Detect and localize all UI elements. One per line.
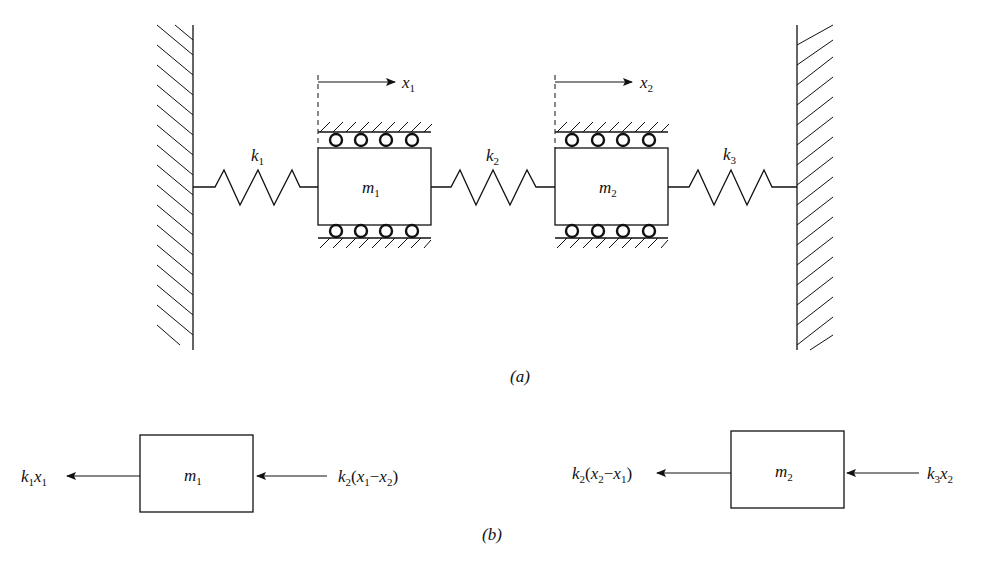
fbd-m2-mass-symbol: m [775, 462, 787, 481]
fbd-m1-mass-subscript: 1 [196, 475, 202, 487]
roller [643, 225, 655, 237]
roller [330, 134, 342, 146]
svg-text:k1: k1 [251, 146, 264, 167]
svg-text:k3: k3 [723, 145, 737, 166]
two-mass-spring-system-diagram: k1 m1 [0, 0, 987, 573]
roller [566, 225, 578, 237]
part-b-label: (b) [482, 525, 502, 544]
roller [355, 134, 367, 146]
roller [406, 225, 418, 237]
roller [617, 225, 629, 237]
fbd-m1-left-force-label: k1x1 [21, 467, 47, 488]
roller [380, 134, 392, 146]
fbd-m2-box [731, 431, 844, 508]
roller [592, 225, 604, 237]
svg-text:m2: m2 [599, 178, 617, 199]
free-body-diagram-m2: m2 k2(x2−x1) k3x2 [572, 431, 953, 508]
mass-m2-symbol: m [599, 178, 611, 197]
free-body-diagram-m1: m1 k1x1 k2(x1−x2) [21, 435, 398, 512]
mass-m2-top-guide [555, 122, 669, 146]
mass-m1-subscript: 1 [374, 187, 380, 199]
fbd-m2-left-force-label: k2(x2−x1) [572, 464, 632, 485]
part-a-system: k1 m1 [157, 25, 833, 386]
roller [355, 225, 367, 237]
displacement-x1-subscript: 1 [410, 82, 416, 94]
roller [592, 134, 604, 146]
roller [566, 134, 578, 146]
left-wall-hatching [157, 25, 193, 345]
fbd-m2-mass-subscript: 2 [787, 471, 793, 483]
mass-m2-subscript: 2 [611, 187, 617, 199]
mass-m2: m2 [555, 148, 668, 225]
mass-m1-top-guide [318, 122, 432, 146]
part-b-free-body-diagrams: m1 k1x1 k2(x1−x2) m2 k2(x2−x1) [21, 431, 953, 544]
fbd-m1-box [140, 435, 253, 512]
roller [330, 225, 342, 237]
fbd-m1-mass-symbol: m [184, 466, 196, 485]
fbd-m2-right-force-label: k3x2 [927, 464, 953, 485]
spring-k3: k3 [668, 145, 797, 205]
svg-text:m2: m2 [775, 462, 793, 483]
displacement-x2-subscript: 2 [648, 82, 654, 94]
spring-k2: k2 [431, 146, 555, 205]
svg-text:m1: m1 [184, 466, 202, 487]
mass-m2-bottom-guide [555, 225, 668, 248]
roller [406, 134, 418, 146]
spring-k3-subscript: 3 [731, 154, 737, 166]
right-wall-hatching [797, 25, 833, 350]
svg-text:k2: k2 [486, 146, 499, 167]
part-a-label: (a) [510, 367, 530, 386]
spring-k1-subscript: 1 [259, 155, 265, 167]
svg-text:x1: x1 [401, 73, 415, 94]
right-wall [797, 25, 833, 350]
spring-k2-subscript: 2 [494, 155, 500, 167]
roller [643, 134, 655, 146]
svg-text:x2: x2 [639, 73, 653, 94]
left-wall [157, 25, 193, 350]
mass-m1-bottom-guide [318, 225, 431, 248]
svg-text:m1: m1 [362, 178, 380, 199]
roller [380, 225, 392, 237]
mass-m1: m1 [318, 148, 431, 225]
spring-k1: k1 [193, 146, 318, 205]
roller [617, 134, 629, 146]
fbd-m1-right-force-label: k2(x1−x2) [338, 467, 398, 488]
mass-m1-symbol: m [362, 178, 374, 197]
